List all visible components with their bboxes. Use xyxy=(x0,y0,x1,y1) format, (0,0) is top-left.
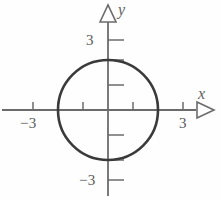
y-tick-label-negative-three: −3 xyxy=(79,173,95,188)
y-tick-label-positive-three: 3 xyxy=(86,33,94,48)
plot-canvas xyxy=(0,0,221,200)
axis-group xyxy=(2,5,214,196)
x-axis-label: x xyxy=(198,86,205,102)
x-tick-label-negative-three: −3 xyxy=(20,116,36,131)
coordinate-plane-figure: y x 3 −3 −3 3 xyxy=(0,0,221,200)
y-axis-arrow-icon xyxy=(100,5,116,22)
y-axis-label: y xyxy=(118,2,125,18)
x-tick-label-positive-three: 3 xyxy=(179,116,187,131)
x-axis-arrow-icon xyxy=(197,102,214,118)
